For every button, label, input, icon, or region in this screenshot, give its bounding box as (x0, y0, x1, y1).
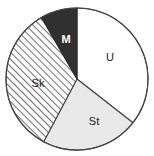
pie-slices-group (6, 8, 148, 150)
pie-slice-label-m: M (61, 33, 70, 45)
pie-chart-svg: UStSkM (0, 0, 154, 156)
pie-slice-label-st: St (89, 115, 99, 127)
pie-slice-label-sk: Sk (32, 77, 45, 89)
pie-slice-label-u: U (106, 51, 114, 63)
pie-chart-figure: UStSkM (0, 0, 154, 156)
